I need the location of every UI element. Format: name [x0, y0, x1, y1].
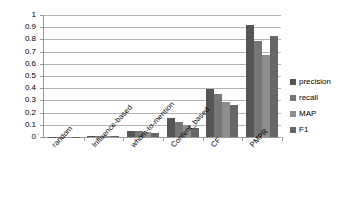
y-tick-mark: [40, 64, 43, 65]
legend-swatch-icon: [290, 95, 296, 101]
legend-swatch-icon: [290, 127, 296, 133]
bar-recall: [254, 41, 262, 137]
y-tick-mark: [40, 125, 43, 126]
bar-group: [203, 15, 243, 137]
x-tick-mark: [84, 137, 85, 141]
y-tick-label: 0.1: [0, 121, 36, 129]
legend-label: precision: [299, 78, 331, 86]
y-tick-label: 0.2: [0, 109, 36, 117]
x-tick-mark: [163, 137, 164, 141]
y-tick-label: 0.3: [0, 96, 36, 104]
y-tick-label: 0: [0, 133, 36, 141]
y-tick-label: 0.4: [0, 84, 36, 92]
legend-label: F1: [299, 126, 308, 134]
y-tick-label: 0.5: [0, 72, 36, 80]
x-tick-mark: [282, 137, 283, 141]
legend-item[interactable]: F1: [290, 126, 331, 134]
legend-item[interactable]: precision: [290, 78, 331, 86]
x-tick-mark: [242, 137, 243, 141]
y-tick-mark: [40, 27, 43, 28]
bar-F1: [111, 136, 119, 137]
bar-F1: [72, 137, 80, 138]
bar-F1: [270, 36, 278, 137]
y-tick-label: 1: [0, 11, 36, 19]
legend-item[interactable]: MAP: [290, 110, 331, 118]
bar-F1: [230, 105, 238, 137]
bar-group: [242, 15, 282, 137]
y-tick-mark: [40, 52, 43, 53]
y-tick-mark: [40, 76, 43, 77]
bar-F1: [151, 133, 159, 137]
chart-screenshot: 10.90.80.70.60.50.40.30.20.10 randomInfl…: [0, 0, 350, 207]
bar-precision: [246, 25, 254, 137]
x-tick-mark: [123, 137, 124, 141]
legend-label: MAP: [299, 110, 316, 118]
legend-label: recall: [299, 94, 318, 102]
y-tick-mark: [40, 100, 43, 101]
y-tick-label: 0.9: [0, 23, 36, 31]
legend-item[interactable]: recall: [290, 94, 331, 102]
bar-recall: [214, 94, 222, 137]
y-tick-label: 0.7: [0, 48, 36, 56]
y-tick-mark: [40, 137, 43, 138]
bar-MAP: [222, 102, 230, 137]
legend-swatch-icon: [290, 111, 296, 117]
y-tick-mark: [40, 39, 43, 40]
bar-MAP: [262, 55, 270, 137]
y-tick-label: 0.8: [0, 35, 36, 43]
y-tick-mark: [40, 15, 43, 16]
y-tick-mark: [40, 88, 43, 89]
x-tick-mark: [203, 137, 204, 141]
legend-swatch-icon: [290, 79, 296, 85]
bar-precision: [167, 118, 175, 137]
y-tick-mark: [40, 113, 43, 114]
legend: precisionrecallMAPF1: [290, 78, 331, 134]
bar-group: [44, 15, 84, 137]
y-tick-label: 0.6: [0, 60, 36, 68]
